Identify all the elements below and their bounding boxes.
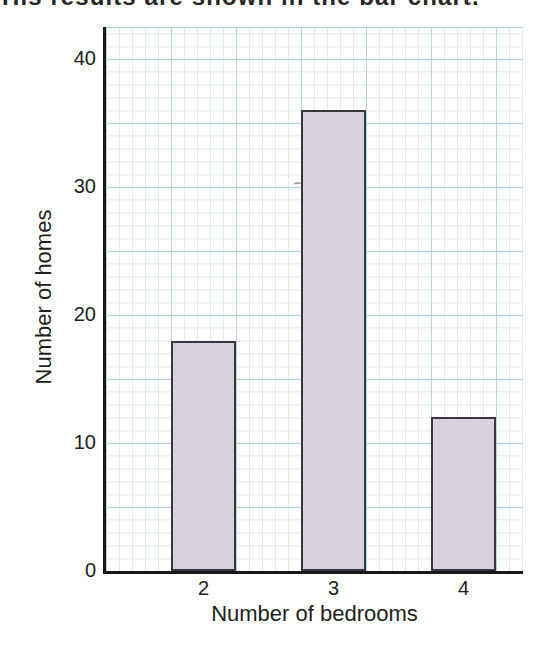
y-tick-label-20: 20 <box>46 303 96 326</box>
y-tick-label-40: 40 <box>46 47 96 70</box>
bar-chart-plot-area <box>103 27 523 574</box>
x-tick-label-2: 2 <box>198 577 209 600</box>
x-axis-title: Number of bedrooms <box>106 601 523 627</box>
intro-text: His results are shown in the bar chart. <box>2 0 480 10</box>
y-tick-label-0: 0 <box>46 559 96 582</box>
x-tick-label-4: 4 <box>458 577 469 600</box>
y-tick-label-30: 30 <box>46 175 96 198</box>
bar-4-bedrooms <box>431 417 496 571</box>
y-tick-label-10: 10 <box>46 431 96 454</box>
bar-3-bedrooms <box>301 110 366 571</box>
x-tick-label-3: 3 <box>328 577 339 600</box>
cropped-intro-sentence: His results are shown in the bar chart. <box>2 0 550 10</box>
bar-2-bedrooms <box>171 341 236 571</box>
y-axis-title: Number of homes <box>31 210 57 385</box>
